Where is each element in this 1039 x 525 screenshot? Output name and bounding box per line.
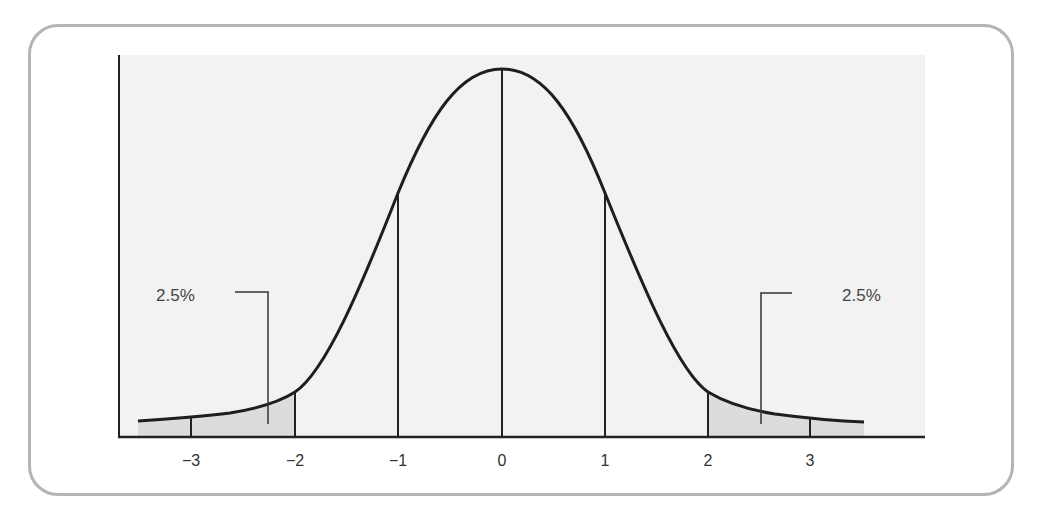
x-tick-label: −2 <box>286 452 304 469</box>
left-tail-percent-label: 2.5% <box>156 286 195 305</box>
x-tick-label: 0 <box>498 452 507 469</box>
x-tick-label: −1 <box>389 452 407 469</box>
right-tail-percent-label: 2.5% <box>842 286 881 305</box>
x-tick-label: 2 <box>704 452 713 469</box>
x-tick-label: −3 <box>182 452 200 469</box>
distribution-chart: 2.5% 2.5% −3 −2 −1 0 1 2 3 <box>0 0 1039 525</box>
x-tick-label: 3 <box>806 452 815 469</box>
plot-panel <box>119 55 925 437</box>
x-tick-label: 1 <box>601 452 610 469</box>
